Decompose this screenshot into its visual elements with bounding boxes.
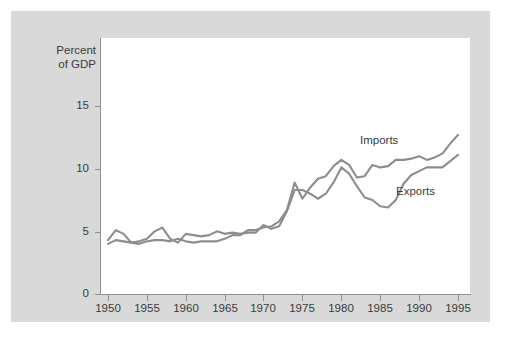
figure-panel: Percent of GDP 15 10 5 0 1950 1955 1960 … xyxy=(11,11,490,322)
series-lines xyxy=(11,11,490,322)
series-label-exports: Exports xyxy=(396,186,435,198)
line-exports xyxy=(108,155,458,243)
series-label-imports: Imports xyxy=(360,135,398,147)
